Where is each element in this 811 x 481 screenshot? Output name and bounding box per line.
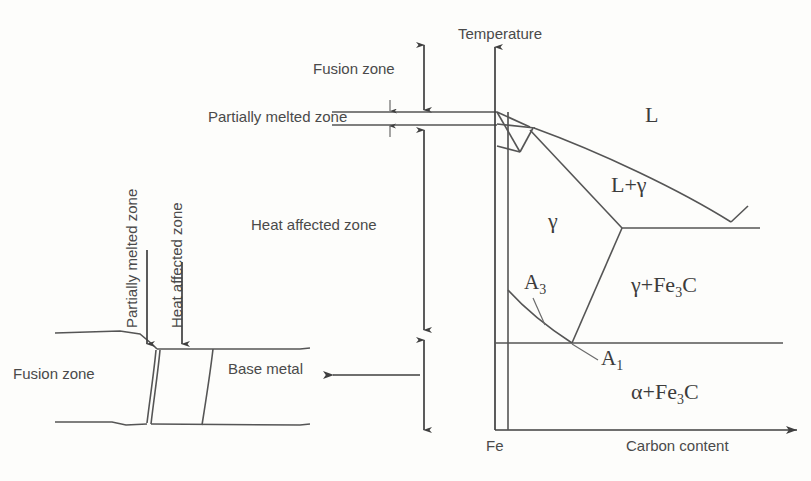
a3-label-sub: 3 (539, 282, 546, 297)
weld-phase-diagram: Fusion zone Base metal Partially melted … (0, 0, 811, 481)
plate-top-surface-line (157, 348, 310, 349)
weld-bead-top-left-line (55, 331, 157, 349)
phase-diagram: Temperature Carbon content Fe (458, 25, 797, 454)
fe-origin-label: Fe (486, 437, 504, 454)
alpha-cementite-tail: C (684, 379, 699, 404)
gamma-cementite-main: γ+Fe (630, 272, 675, 297)
carbon-content-axis-label: Carbon content (626, 437, 729, 454)
base-metal-label: Base metal (228, 360, 303, 377)
acm-solvus-line (572, 228, 622, 343)
partially-melted-zone-callout: Partially melted zone (123, 189, 147, 344)
region-label-gamma-plus-cementite: γ+Fe3C (630, 272, 697, 300)
haz-boundary-line (202, 349, 213, 425)
heat-affected-zone-band-label: Heat affected zone (251, 216, 377, 233)
region-label-liquid-plus-gamma: L+γ (611, 172, 647, 197)
fusion-boundary-line (147, 350, 156, 423)
partially-melted-zone-band-label: Partially melted zone (208, 108, 347, 125)
svg-text:γ+Fe3C: γ+Fe3C (630, 272, 697, 300)
a1-label-sub: 1 (616, 358, 623, 373)
plate-bottom-left-line (55, 422, 147, 425)
svg-text:A1: A1 (601, 346, 623, 373)
plate-bottom-surface-line (151, 424, 310, 425)
heat-affected-zone-callout: Heat affected zone (168, 202, 185, 344)
svg-text:α+Fe3C: α+Fe3C (631, 379, 699, 407)
a3-leader-line (533, 298, 545, 325)
region-label-alpha-plus-cementite: α+Fe3C (631, 379, 699, 407)
alpha-cementite-main: α+Fe (631, 379, 677, 404)
gamma-cementite-sub: 3 (675, 285, 682, 300)
eutectic-notch-line (731, 206, 748, 222)
region-label-gamma: γ (547, 208, 558, 233)
figure-root: Fusion zone Base metal Partially melted … (0, 0, 811, 481)
gamma-cementite-tail: C (682, 272, 697, 297)
temperature-axis-label: Temperature (458, 25, 542, 42)
a1-leader-line (572, 344, 598, 360)
a3-label-main: A (524, 270, 540, 294)
svg-text:A3: A3 (524, 270, 546, 297)
a1-callout: A1 (572, 344, 623, 373)
a1-label-main: A (601, 346, 617, 370)
alpha-cementite-sub: 3 (677, 392, 684, 407)
region-label-liquid: L (645, 102, 658, 127)
fusion-zone-label: Fusion zone (13, 365, 95, 382)
fusion-zone-band-label: Fusion zone (313, 60, 395, 77)
partially-melted-zone-callout-label: Partially melted zone (123, 189, 140, 328)
a3-critical-line (508, 290, 572, 343)
